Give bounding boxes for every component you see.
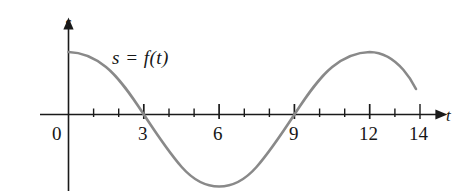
x-tick-label-0: 0	[52, 124, 62, 143]
x-tick-label-6: 6	[213, 124, 223, 143]
x-tick-label-14: 14	[409, 124, 428, 143]
x-tick-label-12: 12	[359, 124, 378, 143]
y-axis-label: s	[65, 14, 72, 31]
x-tick-label-9: 9	[289, 124, 299, 143]
x-axis-major-ticks	[144, 104, 370, 119]
equation-annotation: s = f(t)	[112, 48, 169, 67]
graph-figure: s t s = f(t) 0 3 6 9 12 14	[0, 0, 466, 191]
x-axis-label: t	[446, 107, 451, 124]
function-curve	[69, 52, 417, 187]
x-tick-label-3: 3	[138, 124, 148, 143]
